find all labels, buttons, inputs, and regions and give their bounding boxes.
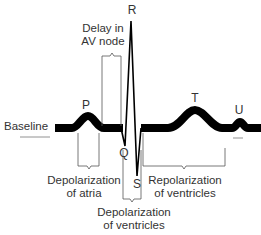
u-wave-label: U bbox=[233, 104, 245, 117]
ecg-trace-thick bbox=[55, 110, 261, 128]
ventricles-depol-label: Depolarization of ventricles bbox=[96, 206, 172, 232]
av-delay-line1: Delay in bbox=[80, 22, 126, 35]
ventricles-repol-line2: of ventricles bbox=[148, 187, 222, 200]
r-wave-label: R bbox=[126, 4, 138, 17]
q-wave-label: Q bbox=[118, 147, 130, 160]
ventricles-repol-bracket bbox=[143, 133, 225, 169]
t-wave-label: T bbox=[189, 92, 201, 105]
baseline-label: Baseline bbox=[4, 120, 54, 133]
atria-bracket bbox=[78, 133, 99, 169]
atria-depol-label: Depolarization of atria bbox=[46, 174, 122, 200]
atria-line2: of atria bbox=[46, 187, 122, 200]
av-delay-line2: AV node bbox=[80, 35, 126, 48]
ventricles-depol-line1: Depolarization bbox=[96, 206, 172, 219]
av-delay-label: Delay in AV node bbox=[80, 22, 126, 48]
av-delay-bracket bbox=[102, 53, 121, 126]
ventricles-depol-line2: of ventricles bbox=[96, 219, 172, 232]
ventricles-repol-line1: Repolarization bbox=[148, 174, 222, 187]
ventricles-repol-label: Repolarization of ventricles bbox=[148, 174, 222, 200]
p-wave-label: P bbox=[80, 99, 92, 112]
s-wave-label: S bbox=[131, 178, 143, 191]
atria-line1: Depolarization bbox=[46, 174, 122, 187]
